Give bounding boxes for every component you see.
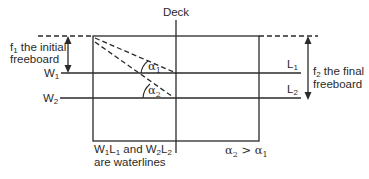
angle-line-1 (95, 38, 176, 73)
initial-freeboard-arrowhead-bottom (65, 65, 72, 73)
angle-arc-alpha1 (141, 61, 148, 73)
final-freeboard-label-line2: freeboard (313, 78, 362, 90)
waterlines-note-line2: are waterlines (94, 156, 166, 168)
final-freeboard-arrowhead-bottom (305, 92, 312, 100)
final-freeboard-arrowhead-top (305, 36, 312, 44)
waterlines-note-line1: W1L1 and W2L2 (94, 143, 172, 157)
l1-label: L1 (287, 58, 298, 72)
l2-label: L2 (287, 83, 298, 97)
alpha2-label: α2 (148, 83, 161, 99)
final-freeboard-label-line1: f2 the final (313, 65, 364, 79)
freeboard-diagram: Deck α1 α2 f1 the initial free (0, 0, 369, 179)
w1-label: W1 (44, 67, 60, 81)
w2-label: W2 (43, 92, 59, 106)
deck-label: Deck (163, 6, 189, 18)
initial-freeboard-label-line2: freeboard (10, 53, 59, 65)
alpha1-label: α1 (148, 59, 161, 75)
angle-comparison-note: α2 > α1 (225, 143, 268, 159)
angle-line-2 (95, 42, 173, 97)
